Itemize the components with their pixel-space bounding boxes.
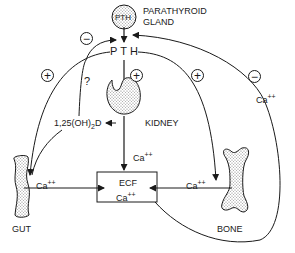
parathyroid-inner-label: PTH: [115, 13, 131, 23]
ca-base: Ca: [133, 153, 145, 163]
bone-label: BONE: [217, 224, 243, 234]
ecf-ca-label: Ca++: [116, 190, 136, 203]
vitamin-d-label: 1,25(OH)2D: [54, 118, 101, 132]
vitamin-d-suffix: D: [95, 118, 102, 128]
ca-sup: ++: [198, 179, 206, 186]
plus-sign-icon: +: [41, 69, 54, 82]
question-mark: ?: [84, 76, 90, 86]
kidney-label: KIDNEY: [145, 118, 179, 128]
parathyroid-label-line1: PARATHYROID: [143, 6, 207, 16]
vitd-to-gut-arrow: [32, 130, 62, 175]
minus-sign-icon: −: [248, 70, 261, 83]
ca-base: Ca: [186, 181, 198, 191]
bone-icon: [222, 148, 249, 212]
kidney-icon: [107, 78, 140, 114]
plus-sign-icon: +: [130, 69, 143, 82]
feedback-ca-label: Ca++: [256, 92, 276, 105]
ca-base: Ca: [116, 193, 128, 203]
ca-sup: ++: [48, 179, 56, 186]
ca-base: Ca: [36, 181, 48, 191]
ca-feedback-arrow: [133, 35, 280, 242]
vitamin-d-prefix: 1,25(OH): [54, 118, 91, 128]
bone-ecf-ca-label: Ca++: [186, 178, 206, 191]
ca-sup: ++: [145, 151, 153, 158]
plus-sign-icon: +: [191, 69, 204, 82]
minus-sign-icon: −: [80, 32, 93, 45]
parathyroid-label-line2: GLAND: [143, 17, 174, 27]
ca-base: Ca: [256, 95, 268, 105]
kidney-ecf-ca-label: Ca++: [133, 150, 153, 163]
pth-label: PTH: [110, 46, 141, 56]
ca-sup: ++: [128, 191, 136, 198]
gut-icon: [14, 156, 30, 218]
ca-sup: ++: [268, 93, 276, 100]
gut-label: GUT: [12, 224, 31, 234]
ecf-label: ECF: [119, 178, 137, 188]
calcium-regulation-diagram: PTH PARATHYROID GLAND PTH KIDNEY 1,25(OH…: [0, 0, 295, 253]
gut-ecf-ca-label: Ca++: [36, 178, 56, 191]
